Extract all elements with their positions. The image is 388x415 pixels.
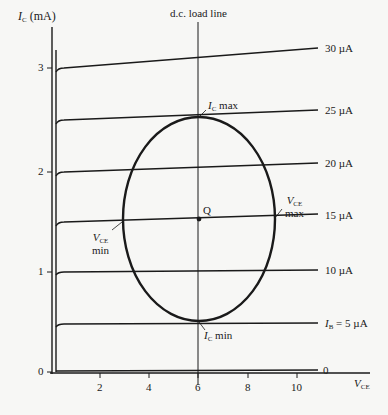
characteristic-curves	[56, 48, 318, 371]
x-tick-4: 4	[146, 382, 152, 393]
ic-max-label: IC max	[208, 100, 238, 113]
x-axis-label: VCE	[354, 378, 370, 391]
y-tick-2: 2	[38, 166, 44, 177]
x-tick-6: 6	[195, 382, 201, 393]
y-tick-3: 3	[38, 62, 44, 73]
curve-30uA	[56, 48, 318, 72]
load-line-label: d.c. load line	[170, 8, 227, 19]
curve-label-0: 0	[323, 365, 329, 376]
ic-min-label: IC min	[204, 330, 232, 343]
vce-max-label: VCE max	[285, 195, 304, 219]
x-tick-2: 2	[97, 382, 103, 393]
y-axis-label: IC (mA)	[18, 10, 56, 24]
curve-label-30uA: 30 µA	[325, 43, 353, 54]
curve-5uA	[56, 323, 318, 327]
curve-15uA	[56, 214, 318, 226]
vce-min-label: VCE min	[92, 232, 109, 256]
y-tick-0: 0	[38, 366, 44, 377]
q-label: Q	[203, 205, 211, 216]
curve-20uA	[56, 163, 318, 176]
curve-10uA	[56, 270, 318, 275]
curve-label-20uA: 20 µA	[325, 158, 353, 169]
curve-label-5uA: IB = 5 µA	[325, 318, 368, 331]
x-tick-10: 10	[291, 382, 302, 393]
q-point	[197, 217, 202, 222]
characteristics-figure	[0, 0, 388, 415]
curve-label-25uA: 25 µA	[325, 105, 353, 116]
curve-label-10uA: 10 µA	[325, 265, 353, 276]
y-ticks	[47, 68, 52, 372]
x-tick-8: 8	[245, 382, 251, 393]
y-tick-1: 1	[38, 266, 44, 277]
curve-0uA	[56, 370, 318, 371]
curve-label-15uA: 15 µA	[325, 210, 353, 221]
curve-25uA	[56, 110, 318, 124]
vce-min-leader	[112, 222, 122, 230]
